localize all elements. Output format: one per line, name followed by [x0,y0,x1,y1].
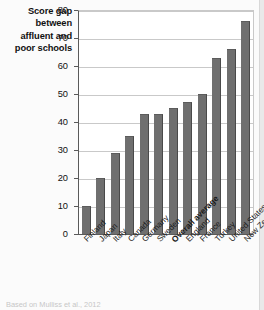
bar [82,206,91,234]
y-tick-label: 60 [58,62,68,71]
y-tick-label: 20 [58,174,68,183]
y-tick-label: 0 [63,230,68,239]
bar-slot [137,10,152,234]
bar-series [79,10,253,234]
bar-slot [181,10,196,234]
y-tick-label: 40 [58,118,68,127]
y-tick-label: 10 [58,202,68,211]
bar [125,136,134,234]
page-edge-decoration [259,0,264,310]
y-tick-label: 50 [58,90,68,99]
bar-slot [166,10,181,234]
bar-slot [79,10,94,234]
bar [154,114,163,234]
bar-slot [123,10,138,234]
bar-slot [224,10,239,234]
bar-slot [210,10,225,234]
bar [212,58,221,234]
bar [198,94,207,234]
bar-slot [108,10,123,234]
bar-slot [239,10,254,234]
y-axis: 01020304050607080 [0,0,78,245]
y-tick-label: 70 [58,34,68,43]
y-tick-label: 80 [58,6,68,15]
bar [96,178,105,234]
chart-figure: Score gap between affluent and poor scho… [0,0,264,310]
bar [169,108,178,234]
bar-slot [152,10,167,234]
bar-slot [94,10,109,234]
bar [241,21,250,234]
bar-slot [195,10,210,234]
bar [183,102,192,234]
source-note: Based on Mulliss et al., 2012 [6,301,101,310]
bar [227,49,236,234]
bar [140,114,149,234]
y-tick-label: 30 [58,146,68,155]
bar [111,153,120,234]
